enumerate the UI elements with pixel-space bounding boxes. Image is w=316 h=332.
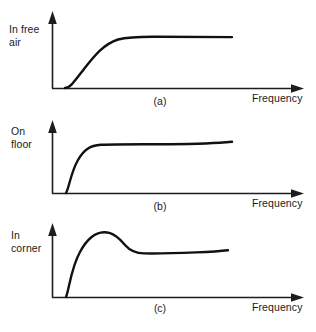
panel-a-y-axis-label: In freeair [9,23,39,48]
response-curve-free-air [65,37,232,88]
panel-c-caption: (c) [130,302,190,314]
panel-on-floor: Onfloor (b) Frequency [0,108,316,214]
panel-b-caption: (b) [130,200,190,212]
panel-b-y-label-line1: On [11,125,25,137]
panel-b-x-axis-label: Frequency [252,197,303,209]
y-axis-arrow-icon [48,11,57,24]
panel-b-y-axis-label: Onfloor [11,125,32,150]
response-curve-in-corner [66,232,228,297]
panel-c-y-label-line1: In [11,229,20,241]
panel-a-y-label-line1: In free [9,23,39,35]
y-axis-arrow-icon [48,120,57,133]
figure-container: In freeair (a) Frequency Onfloor (b) Fre… [0,0,316,332]
panel-b-y-label-line2: floor [11,138,32,150]
panel-c-y-axis-label: Incorner [11,229,41,254]
response-curve-on-floor [66,142,232,193]
panel-c-y-label-line2: corner [11,242,41,254]
panel-c-x-axis-label: Frequency [252,301,303,313]
panel-a-caption: (a) [130,95,190,107]
panel-a-y-label-line2: air [9,36,21,48]
y-axis-arrow-icon [48,223,57,236]
panel-a-x-axis-label: Frequency [252,92,303,104]
panel-in-free-air: In freeair (a) Frequency [0,0,316,112]
panel-c-plot [0,212,316,332]
panel-in-corner: Incorner (c) Frequency [0,212,316,332]
